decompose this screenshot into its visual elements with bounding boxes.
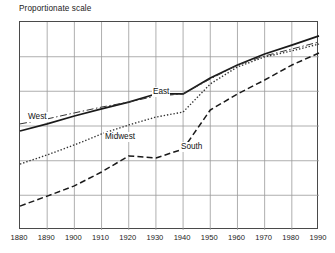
- series-line-east: [20, 36, 319, 131]
- chart-title: Proportionate scale: [19, 4, 91, 13]
- series-line-midwest: [20, 44, 319, 164]
- x-tick-label: 1890: [38, 233, 55, 242]
- x-tick-label: 1990: [310, 233, 327, 242]
- series-label-midwest: Midwest: [104, 132, 136, 142]
- x-tick-label: 1880: [11, 233, 28, 242]
- x-tick-label: 1930: [146, 233, 163, 242]
- chart-series-group: [20, 22, 319, 230]
- series-label-west: West: [27, 112, 48, 122]
- series-label-south: South: [180, 142, 203, 152]
- plot-area: [19, 21, 318, 229]
- x-axis-tick-labels: 1880189019001910192019301940195019601970…: [19, 233, 318, 247]
- x-tick-label: 1910: [92, 233, 109, 242]
- x-tick-label: 1970: [255, 233, 272, 242]
- x-tick-label: 1960: [228, 233, 245, 242]
- x-tick-label: 1980: [282, 233, 299, 242]
- chart-figure: Proportionate scale 18801890190019101920…: [0, 0, 335, 253]
- series-line-south: [20, 53, 319, 206]
- x-tick-label: 1940: [174, 233, 191, 242]
- x-tick-label: 1920: [119, 233, 136, 242]
- x-tick-label: 1950: [201, 233, 218, 242]
- x-tick-label: 1900: [65, 233, 82, 242]
- series-label-east: East: [152, 87, 170, 97]
